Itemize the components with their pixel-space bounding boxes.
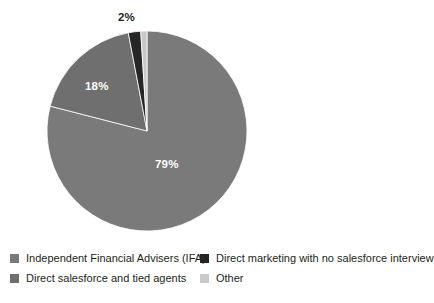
chart-legend: Independent Financial Advisers (IFA) Dir… — [10, 248, 425, 288]
legend-swatch-icon — [10, 274, 19, 283]
legend-swatch-icon — [200, 274, 209, 283]
slice-label-direct-marketing: 2% — [118, 11, 135, 23]
legend-item-direct-salesforce[interactable]: Direct salesforce and tied agents — [10, 268, 200, 288]
legend-item-direct-marketing[interactable]: Direct marketing with no salesforce inte… — [200, 248, 434, 268]
slice-label-direct-salesforce: 18% — [85, 80, 109, 92]
legend-item-label: Direct marketing with no salesforce inte… — [216, 252, 434, 265]
legend-item-label: Independent Financial Advisers (IFA) — [26, 252, 206, 265]
legend-item-other[interactable]: Other — [200, 268, 434, 288]
slice-label-ifa: 79% — [155, 158, 179, 170]
legend-swatch-icon — [200, 254, 209, 263]
pie-svg — [0, 0, 430, 240]
legend-item-label: Direct salesforce and tied agents — [26, 272, 186, 285]
legend-item-label: Other — [216, 272, 244, 285]
legend-item-ifa[interactable]: Independent Financial Advisers (IFA) — [10, 248, 200, 268]
chart-plot-area: 79% 18% 2% — [0, 0, 430, 240]
pie-slice-group — [47, 31, 247, 231]
legend-swatch-icon — [10, 254, 19, 263]
